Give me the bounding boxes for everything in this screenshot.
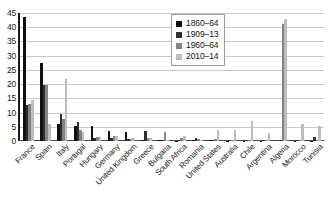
bar: [251, 121, 254, 141]
legend-item: 2010–14: [176, 51, 218, 62]
legend-item-label: 1909–13: [186, 30, 218, 39]
x-axis: FranceSpainItalyPortugalHungaryGermanyUn…: [20, 141, 324, 208]
bar: [82, 132, 85, 141]
legend-swatch-icon: [176, 54, 182, 60]
bar-chart: 051015202530354045 FranceSpainItalyPortu…: [0, 0, 328, 208]
legend-item-label: 1860–64: [186, 19, 218, 28]
bar-group: [155, 13, 172, 141]
legend-item: 1960–64: [176, 40, 218, 51]
bar-group: [37, 13, 54, 141]
bar-group: [290, 13, 307, 141]
bar-group: [104, 13, 121, 141]
legend-item: 1860–64: [176, 18, 218, 29]
bar: [268, 133, 271, 141]
y-axis-tick-label: 35: [7, 37, 16, 46]
bar-group: [307, 13, 324, 141]
bar: [284, 19, 287, 141]
y-axis-tick-label: 40: [7, 23, 16, 32]
bar: [301, 124, 304, 141]
legend-swatch-icon: [176, 21, 182, 27]
y-axis-tick-label: 15: [7, 94, 16, 103]
bar-group: [88, 13, 105, 141]
x-axis-tick-label: Spain: [35, 143, 54, 162]
bar: [65, 79, 68, 141]
bar: [48, 124, 51, 141]
bar-group: [121, 13, 138, 141]
bar: [31, 100, 34, 141]
y-axis-tick-label: 10: [7, 108, 16, 117]
bar-group: [273, 13, 290, 141]
legend-item-label: 2010–14: [186, 52, 218, 61]
legend-swatch-icon: [176, 32, 182, 38]
legend-item-label: 1960–64: [186, 41, 218, 50]
bar: [318, 126, 321, 141]
bar-group: [71, 13, 88, 141]
chart-legend: 1860–641909–131960–642010–14: [171, 14, 225, 66]
y-axis: 051015202530354045: [0, 13, 16, 141]
bar-group: [240, 13, 257, 141]
bar-group: [256, 13, 273, 141]
y-axis-tick-label: 0: [11, 137, 16, 146]
y-axis-tick-label: 25: [7, 66, 16, 75]
bar-group: [20, 13, 37, 141]
bar: [234, 130, 237, 141]
bar-group: [54, 13, 71, 141]
y-axis-tick-label: 45: [7, 9, 16, 18]
bar: [217, 130, 220, 141]
y-axis-tick-label: 5: [11, 123, 16, 132]
legend-swatch-icon: [176, 43, 182, 49]
legend-item: 1909–13: [176, 29, 218, 40]
y-axis-tick-label: 20: [7, 80, 16, 89]
y-axis-tick-label: 30: [7, 51, 16, 60]
bar-group: [138, 13, 155, 141]
